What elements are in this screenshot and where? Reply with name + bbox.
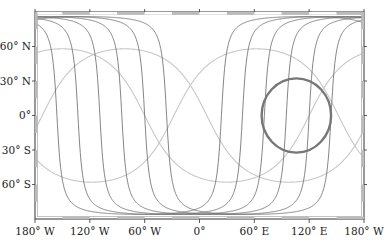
y-axis-ticks: 60° N30° N0°30° S60° S <box>0 40 367 190</box>
x-tick-label: 0° <box>194 225 206 237</box>
x-tick-label: 120° E <box>291 225 327 237</box>
y-tick-label: 30° N <box>0 75 31 87</box>
highlight-circle <box>262 78 331 152</box>
x-tick-label: 60° E <box>240 225 270 237</box>
y-tick-label: 0° <box>19 109 31 121</box>
map-frame <box>35 12 364 219</box>
low-inclination-track <box>35 49 364 182</box>
great-circle-tracks <box>35 17 364 215</box>
y-tick-label: 30° S <box>2 144 31 156</box>
x-tick-label: 180° W <box>344 225 384 237</box>
map-plot: 180° W120° W60° W0°60° E120° E180° W 60°… <box>0 0 390 246</box>
low-inclination-track <box>35 49 364 182</box>
x-tick-label: 60° W <box>128 225 161 237</box>
x-tick-label: 180° W <box>15 225 55 237</box>
y-tick-label: 60° S <box>2 178 31 190</box>
high-inclination-track <box>35 17 364 215</box>
x-tick-label: 120° W <box>70 225 110 237</box>
y-tick-label: 60° N <box>0 40 31 52</box>
low-inclination-track <box>35 49 364 182</box>
